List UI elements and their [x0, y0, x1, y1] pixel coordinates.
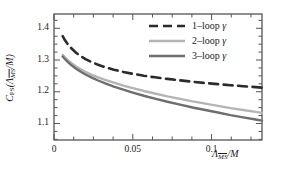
- y-label-close: ): [4, 54, 15, 57]
- y-axis-label: CPS(ΛMS/M): [2, 26, 18, 130]
- y-label-lambda: Λ: [4, 78, 15, 84]
- y-tick-label: 1.3: [27, 54, 49, 64]
- series-line-2: [63, 55, 262, 113]
- series-line-3: [63, 57, 262, 121]
- figure-container: CPS(ΛMS/M) ΛMS/M 1.11.21.31.4 00.050.1 1…: [0, 0, 285, 175]
- y-tick-label: 1.4: [27, 22, 49, 32]
- x-tick-label: 0.05: [120, 144, 146, 154]
- legend-label-3-loop: 3–loop γ: [192, 50, 226, 61]
- y-label-msbar: MS: [8, 69, 16, 78]
- legend-item-3-loop: 3–loop γ: [148, 48, 256, 63]
- y-label-c: C: [4, 95, 15, 102]
- y-tick-label: 1.2: [27, 85, 49, 95]
- legend-swatch-3-loop: [148, 50, 186, 62]
- legend-swatch-1-loop: [148, 20, 186, 32]
- y-label-slash-m: /M: [4, 58, 15, 69]
- legend-item-2-loop: 2–loop γ: [148, 33, 256, 48]
- legend-label-2-loop: 2–loop γ: [192, 35, 226, 46]
- legend-label-1-loop: 1–loop γ: [192, 20, 226, 31]
- y-label-open: (: [4, 84, 15, 87]
- legend-swatch-2-loop: [148, 35, 186, 47]
- y-label-ps: PS: [8, 87, 16, 95]
- x-label-slash-m: /M: [227, 148, 238, 159]
- y-tick-label: 1.1: [27, 117, 49, 127]
- chart-legend: 1–loop γ 2–loop γ 3–loop γ: [148, 18, 256, 63]
- x-tick-label: 0.1: [199, 144, 225, 154]
- legend-item-1-loop: 1–loop γ: [148, 18, 256, 33]
- x-tick-label: 0: [41, 144, 67, 154]
